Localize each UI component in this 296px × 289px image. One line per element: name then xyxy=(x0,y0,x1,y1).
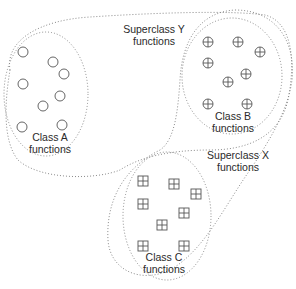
class-c-member-boxed-plus-icon xyxy=(138,199,148,209)
class-c-member-boxed-plus-icon xyxy=(138,176,148,186)
class-a-member-circle-icon xyxy=(59,69,69,79)
class-c-subtitle: functions xyxy=(134,263,194,275)
class-a-member-circle-icon xyxy=(55,91,65,101)
class-a-label: Class A functions xyxy=(20,131,80,155)
class-c-label: Class C functions xyxy=(134,251,194,275)
class-b-member-circled-plus-icon xyxy=(255,47,265,57)
class-c-member-boxed-plus-icon xyxy=(179,241,189,251)
class-b-member-circled-plus-icon xyxy=(203,58,213,68)
class-a-title: Class A xyxy=(20,131,80,143)
class-c-member-boxed-plus-icon xyxy=(179,208,189,218)
class-b-member-circled-plus-icon xyxy=(241,69,251,79)
class-c-member-boxed-plus-icon xyxy=(157,220,167,230)
class-b-member-circled-plus-icon xyxy=(223,77,233,87)
superclass-x-label: Superclass X functions xyxy=(198,149,278,173)
class-a-member-circle-icon xyxy=(18,47,28,57)
class-b-member-circled-plus-icon xyxy=(203,37,213,47)
class-a-member-circle-icon xyxy=(38,101,48,111)
class-b-member-circled-plus-icon xyxy=(242,99,252,109)
class-a-member-circle-icon xyxy=(48,57,58,67)
superclass-y-title: Superclass Y xyxy=(114,23,194,35)
class-b-title: Class B xyxy=(203,110,263,122)
superclass-x-subtitle: functions xyxy=(198,161,278,173)
class-c-member-boxed-plus-icon xyxy=(138,241,148,251)
superclass-x-title: Superclass X xyxy=(198,149,278,161)
class-b-member-circled-plus-icon xyxy=(233,37,243,47)
class-b-members xyxy=(203,37,265,109)
class-c-member-boxed-plus-icon xyxy=(191,189,201,199)
class-c-title: Class C xyxy=(134,251,194,263)
class-a-member-circle-icon xyxy=(57,120,67,130)
class-a-subtitle: functions xyxy=(20,143,80,155)
class-b-member-circled-plus-icon xyxy=(203,99,213,109)
class-b-label: Class B functions xyxy=(203,110,263,134)
superclass-y-label: Superclass Y functions xyxy=(114,23,194,47)
class-hierarchy-diagram: Superclass Y functions Superclass X func… xyxy=(0,0,296,289)
class-a-members xyxy=(17,47,69,132)
class-b-subtitle: functions xyxy=(203,122,263,134)
class-c-members xyxy=(138,176,201,251)
superclass-y-subtitle: functions xyxy=(114,35,194,47)
class-a-member-circle-icon xyxy=(18,79,28,89)
class-c-member-boxed-plus-icon xyxy=(169,179,179,189)
